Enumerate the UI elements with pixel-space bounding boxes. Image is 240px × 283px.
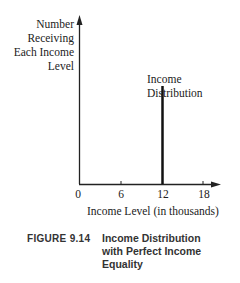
x-tick-18: 18 [198, 188, 210, 200]
figure-title-line: Income Distribution [102, 232, 201, 245]
figure-title-line: with Perfect Income [102, 245, 201, 258]
y-label-line: Number [14, 17, 74, 31]
figure-title: Income Distribution with Perfect Income … [102, 232, 201, 271]
x-tick-6: 6 [118, 188, 124, 200]
figure-number: FIGURE 9.14 [27, 233, 90, 244]
y-label-line: Level [14, 59, 74, 73]
annotation-line: Distribution [147, 86, 203, 100]
x-tick-0: 0 [75, 188, 81, 200]
x-tick-12: 12 [157, 188, 169, 200]
y-label-line: Each Income [14, 45, 74, 59]
y-label-line: Receiving [14, 31, 74, 45]
figure-title-line: Equality [102, 258, 201, 271]
annotation-line: Income [147, 72, 203, 86]
y-axis-label: Number Receiving Each Income Level [14, 17, 74, 73]
x-axis-label: Income Level (in thousands) [87, 205, 219, 217]
bar-annotation: Income Distribution [147, 72, 203, 100]
